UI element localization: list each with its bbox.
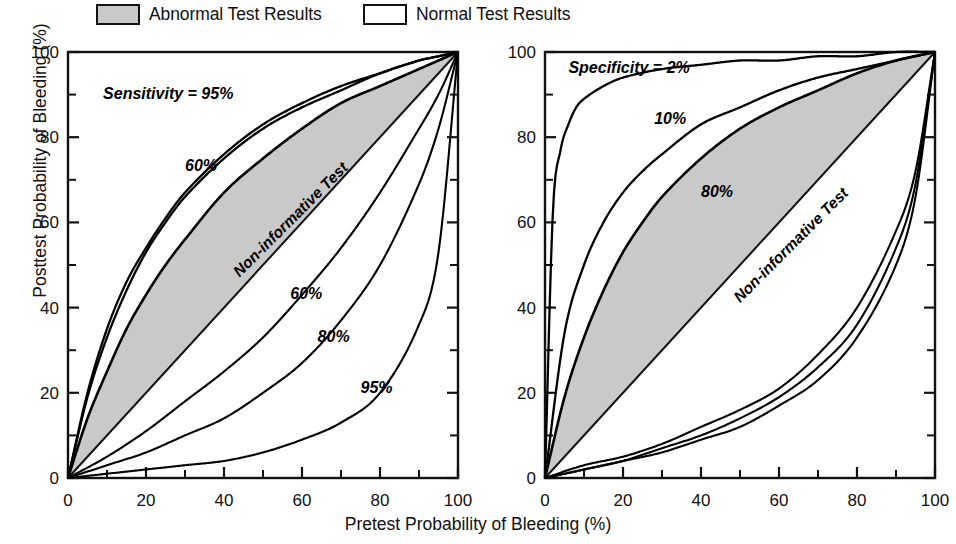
noninformative-diagonal <box>545 52 935 478</box>
x-tick-label: 20 <box>137 491 156 510</box>
y-tick-label: 0 <box>527 469 536 488</box>
curve-annotation: 60% <box>185 157 217 174</box>
curve-annotation: 95% <box>361 379 393 396</box>
curve-annotation: Specificity = 2% <box>568 59 689 76</box>
curve-annotation: 80% <box>318 328 350 345</box>
x-tick-label: 0 <box>540 491 549 510</box>
y-tick-label: 60 <box>517 213 536 232</box>
y-tick-label: 0 <box>50 469 59 488</box>
x-tick-label: 20 <box>614 491 633 510</box>
y-tick-label: 80 <box>40 128 59 147</box>
curve-annotation: 10% <box>654 110 686 127</box>
chart-svg-left: 020406080100020406080100Sensitivity = 95… <box>0 0 500 544</box>
figure-root: Abnormal Test Results Normal Test Result… <box>0 0 956 544</box>
chart-panel-right: 020406080100020406080100Specificity = 2%… <box>478 0 956 544</box>
x-tick-label: 80 <box>848 491 867 510</box>
y-tick-label: 20 <box>517 384 536 403</box>
x-tick-label: 100 <box>921 491 949 510</box>
y-tick-label: 20 <box>40 384 59 403</box>
curve-annotation: 60% <box>290 285 322 302</box>
y-tick-label: 100 <box>31 43 59 62</box>
chart-svg-right: 020406080100020406080100Specificity = 2%… <box>478 0 956 544</box>
x-tick-label: 100 <box>444 491 472 510</box>
y-tick-label: 80 <box>517 128 536 147</box>
y-tick-label: 40 <box>40 299 59 318</box>
curve-annotation: Sensitivity = 95% <box>103 85 233 102</box>
x-tick-label: 60 <box>293 491 312 510</box>
curve-annotation: 80% <box>701 183 733 200</box>
y-tick-label: 100 <box>508 43 536 62</box>
x-tick-label: 0 <box>63 491 72 510</box>
x-tick-label: 60 <box>770 491 789 510</box>
x-tick-label: 40 <box>215 491 234 510</box>
noninformative-diagonal <box>68 52 458 478</box>
x-tick-label: 80 <box>371 491 390 510</box>
x-tick-label: 40 <box>692 491 711 510</box>
y-tick-label: 40 <box>517 299 536 318</box>
y-tick-label: 60 <box>40 213 59 232</box>
chart-panel-left: 020406080100020406080100Sensitivity = 95… <box>0 0 500 544</box>
